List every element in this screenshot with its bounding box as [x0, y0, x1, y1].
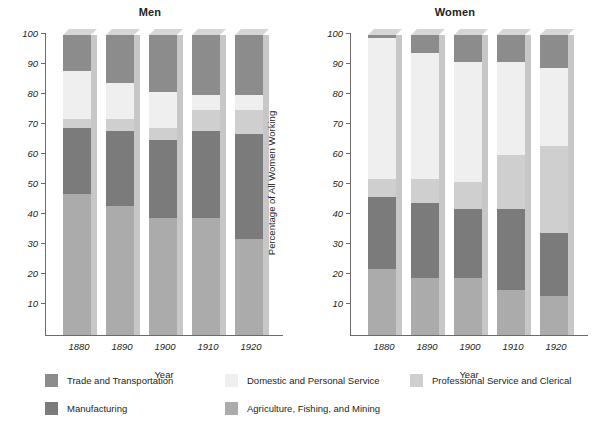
x-tick-label-men-1900: 1900	[154, 341, 175, 352]
legend-item[interactable]: Manufacturing	[45, 402, 127, 415]
legend-swatch-icon	[225, 374, 238, 387]
plot-area-men: 1020304050607080901001880189019001910192…	[45, 33, 275, 336]
bar-segment-agriculture-fishing-and-mining	[540, 296, 568, 335]
bar-side-face	[177, 35, 183, 335]
bar-segment-domestic-and-personal-service	[497, 62, 525, 155]
y-tick-label: 100	[327, 28, 343, 39]
bar-segment-trade-and-transportation	[63, 35, 91, 71]
y-tick-label: 50	[27, 178, 38, 189]
bar-women-1880	[368, 35, 396, 335]
bar-segment-domestic-and-personal-service	[454, 62, 482, 182]
y-axis-line-men	[45, 33, 46, 336]
y-tick-label: 60	[332, 148, 343, 159]
bar-side-face	[482, 35, 488, 335]
y-tick-mark	[346, 213, 350, 214]
y-tick-mark	[41, 183, 45, 184]
bar-segment-trade-and-transportation	[368, 35, 396, 38]
panel-women: Women 1020304050607080901001880189019001…	[305, 0, 605, 365]
bar-side-face	[220, 35, 226, 335]
y-tick-label: 30	[332, 238, 343, 249]
y-tick-mark	[41, 93, 45, 94]
bar-segment-agriculture-fishing-and-mining	[235, 239, 263, 335]
bar-segment-domestic-and-personal-service	[540, 68, 568, 146]
y-tick-label: 90	[332, 58, 343, 69]
x-axis-line-men	[45, 335, 283, 336]
bar-segment-manufacturing	[497, 209, 525, 290]
bar-top-face	[454, 29, 488, 35]
panel-title-men: Men	[0, 6, 300, 18]
bar-women-1910	[497, 35, 525, 335]
panel-men: Men 102030405060708090100188018901900191…	[0, 0, 300, 365]
bar-segment-professional-service-and-clerical	[149, 128, 177, 140]
bar-top-face	[63, 29, 97, 35]
y-tick-label: 70	[27, 118, 38, 129]
bar-women-1890	[411, 35, 439, 335]
y-tick-label: 80	[332, 88, 343, 99]
y-tick-mark	[41, 33, 45, 34]
bar-segment-professional-service-and-clerical	[497, 155, 525, 209]
bar-segment-manufacturing	[192, 131, 220, 218]
bar-segment-domestic-and-personal-service	[411, 53, 439, 179]
bar-side-face	[568, 35, 574, 335]
bar-side-face	[525, 35, 531, 335]
bar-top-face	[149, 29, 183, 35]
bar-segment-trade-and-transportation	[149, 35, 177, 92]
y-tick-label: 40	[27, 208, 38, 219]
bar-segment-manufacturing	[411, 203, 439, 278]
legend-item[interactable]: Domestic and Personal Service	[225, 374, 380, 387]
y-tick-label: 10	[332, 298, 343, 309]
bar-women-1920	[540, 35, 568, 335]
legend: Trade and TransportationDomestic and Per…	[0, 366, 609, 437]
bar-segment-professional-service-and-clerical	[106, 119, 134, 131]
y-tick-label: 80	[27, 88, 38, 99]
y-tick-mark	[346, 33, 350, 34]
stacked-bar-figure: Men 102030405060708090100188018901900191…	[0, 0, 609, 437]
bar-segment-professional-service-and-clerical	[540, 146, 568, 233]
y-tick-mark	[41, 243, 45, 244]
y-tick-mark	[346, 183, 350, 184]
bar-segment-trade-and-transportation	[497, 35, 525, 62]
bar-segment-agriculture-fishing-and-mining	[497, 290, 525, 335]
bar-segment-professional-service-and-clerical	[63, 119, 91, 128]
y-tick-mark	[346, 273, 350, 274]
legend-label: Trade and Transportation	[67, 376, 173, 386]
y-tick-mark	[346, 63, 350, 64]
bar-women-1900	[454, 35, 482, 335]
bar-segment-agriculture-fishing-and-mining	[192, 218, 220, 335]
bar-men-1900	[149, 35, 177, 335]
y-tick-label: 20	[332, 268, 343, 279]
bar-segment-agriculture-fishing-and-mining	[368, 269, 396, 335]
bar-segment-manufacturing	[454, 209, 482, 278]
legend-item[interactable]: Trade and Transportation	[45, 374, 173, 387]
bar-segment-trade-and-transportation	[106, 35, 134, 83]
legend-label: Agriculture, Fishing, and Mining	[247, 404, 380, 414]
bar-segment-manufacturing	[63, 128, 91, 194]
bar-segment-domestic-and-personal-service	[106, 83, 134, 119]
bar-segment-trade-and-transportation	[454, 35, 482, 62]
legend-item[interactable]: Agriculture, Fishing, and Mining	[225, 402, 380, 415]
y-tick-label: 90	[27, 58, 38, 69]
y-axis-title-women: Percentage of All Women Working	[266, 110, 277, 254]
x-tick-label-women-1900: 1900	[459, 341, 480, 352]
bar-segment-manufacturing	[106, 131, 134, 206]
bar-men-1910	[192, 35, 220, 335]
bar-segment-domestic-and-personal-service	[63, 71, 91, 119]
y-tick-mark	[41, 273, 45, 274]
bar-segment-manufacturing	[235, 134, 263, 239]
bar-side-face	[91, 35, 97, 335]
legend-item[interactable]: Professional Service and Clerical	[410, 374, 571, 387]
y-tick-label: 50	[332, 178, 343, 189]
x-tick-label-women-1890: 1890	[416, 341, 437, 352]
y-tick-label: 30	[27, 238, 38, 249]
x-tick-label-men-1920: 1920	[240, 341, 261, 352]
legend-swatch-icon	[225, 402, 238, 415]
bar-segment-trade-and-transportation	[235, 35, 263, 95]
bar-segment-domestic-and-personal-service	[192, 95, 220, 110]
bar-top-face	[497, 29, 531, 35]
plot-area-women: 1020304050607080901001880189019001910192…	[350, 33, 580, 336]
bar-segment-professional-service-and-clerical	[454, 182, 482, 209]
x-tick-label-women-1880: 1880	[373, 341, 394, 352]
bar-segment-manufacturing	[368, 197, 396, 269]
bar-segment-manufacturing	[149, 140, 177, 218]
bar-top-face	[540, 29, 574, 35]
